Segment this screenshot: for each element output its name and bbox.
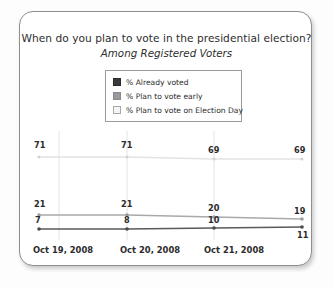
screenshot-root: When do you plan to vote in the presiden…: [0, 0, 334, 288]
series-election-day: [38, 156, 304, 161]
series-already-voted: [37, 225, 304, 231]
data-label-election-day-4: 69: [294, 145, 305, 155]
x-axis-label-1: Oct 19, 2008: [33, 245, 93, 255]
data-label-vote-early-2: 21: [121, 199, 132, 209]
data-label-already-voted-4: 11: [297, 230, 308, 240]
data-label-vote-early-1: 21: [34, 199, 45, 209]
x-axis-label-3: Oct 21, 2008: [204, 245, 264, 255]
data-label-already-voted-2: 8: [124, 215, 130, 225]
data-label-vote-early-4: 19: [294, 206, 305, 216]
plot-svg: [20, 12, 313, 267]
chart-card: When do you plan to vote in the presiden…: [19, 11, 312, 266]
x-axis-label-2: Oct 20, 2008: [120, 245, 180, 255]
gridlines: [59, 131, 214, 240]
data-label-vote-early-3: 20: [208, 203, 219, 213]
plot-area: 71 71 69 69 21 21 20 19 7 8 10 11 Oct 19…: [20, 12, 313, 267]
series-vote-early: [37, 213, 303, 220]
data-label-already-voted-1: 7: [35, 215, 41, 225]
data-label-election-day-3: 69: [208, 145, 219, 155]
data-label-already-voted-3: 10: [208, 215, 219, 225]
data-label-election-day-1: 71: [34, 140, 45, 150]
data-label-election-day-2: 71: [121, 140, 132, 150]
